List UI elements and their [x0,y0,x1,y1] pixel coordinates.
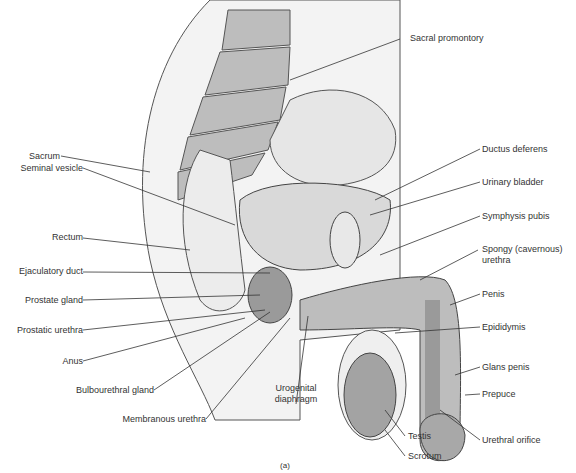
label-urinary-bladder: Urinary bladder [482,177,544,188]
label-urogenital-diaphragm: Urogenital [266,383,326,394]
label-ductus-deferens: Ductus deferens [482,144,548,155]
label-symphysis-pubis: Symphysis pubis [482,211,550,222]
intestines [270,90,396,186]
testis-shape [344,353,396,437]
label-seminal-vesicle: Seminal vesicle [0,163,83,174]
label-urethral-orifice: Urethral orifice [482,435,541,446]
label-sacral-promontory: Sacral promontory [410,33,484,44]
label-urogenital-diaphragm-line2: diaphragm [266,394,326,405]
label-spongy-urethra: Spongy (cavernous) [482,244,563,255]
label-membranous-urethra: Membranous urethra [0,414,206,425]
label-ejaculatory-duct: Ejaculatory duct [0,266,83,277]
label-testis: Testis [408,431,431,442]
figure-caption: (a) [270,460,300,471]
label-prostatic-urethra: Prostatic urethra [0,325,83,336]
symphysis-pubis-shape [330,212,360,268]
label-scrotum: Scrotum [408,451,442,462]
label-anus: Anus [0,356,83,367]
label-glans-penis: Glans penis [482,362,530,373]
label-epididymis: Epididymis [482,322,526,333]
label-bulbourethral-gland: Bulbourethral gland [0,385,154,396]
label-sacrum: Sacrum [0,151,60,162]
label-prostate-gland: Prostate gland [0,295,83,306]
label-prepuce: Prepuce [482,389,516,400]
label-rectum: Rectum [0,232,83,243]
label-penis: Penis [482,289,505,300]
label-spongy-urethra-line2: urethra [482,255,511,266]
